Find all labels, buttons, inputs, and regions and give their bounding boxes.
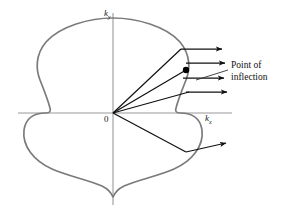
origin-label: 0	[104, 114, 109, 124]
figure-container: ky kx 0 Point of inflection	[0, 0, 289, 212]
inflection-callout-line2: inflection	[231, 72, 267, 84]
x-axis-label-subscript: x	[209, 119, 212, 125]
k-vector-2	[113, 70, 186, 113]
k-vector-4	[113, 113, 186, 152]
y-axis-label-subscript: y	[108, 14, 111, 20]
inflection-callout: Point of inflection	[231, 60, 267, 83]
velocity-arrow-5	[186, 143, 226, 152]
inflection-callout-line1: Point of	[231, 60, 267, 72]
y-axis-label: ky	[104, 9, 111, 20]
diagram-canvas	[0, 0, 289, 212]
x-axis-label: kx	[205, 114, 212, 125]
velocity-arrows-group	[181, 49, 227, 152]
inflection-point-dot	[183, 67, 189, 73]
